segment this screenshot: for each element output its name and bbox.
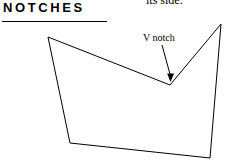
v-notch-label: V notch <box>143 32 175 43</box>
figure-page: NOTCHES its side. V notch <box>0 0 229 164</box>
annotation-arrow-line <box>162 45 171 76</box>
notched-polygon-figure <box>0 0 229 164</box>
notched-polygon-shape <box>48 24 221 158</box>
